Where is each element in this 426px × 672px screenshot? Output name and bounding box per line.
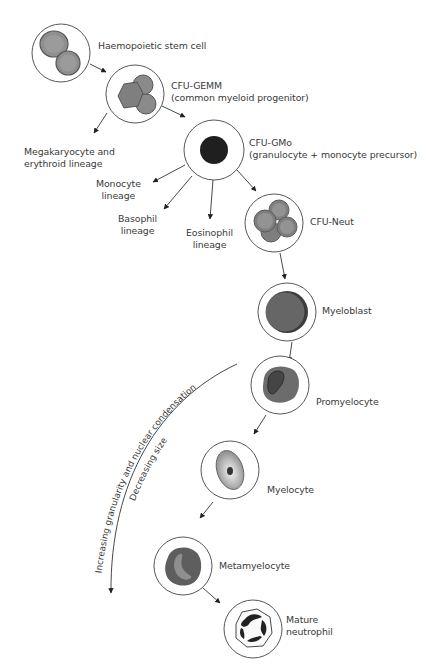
node-promyelocyte xyxy=(251,356,309,414)
label-cfu-gemm: CFU-GEMM (common myeloid progenitor) xyxy=(171,80,309,104)
label-cfu-gmo: CFU-GMo (granulocyte + monocyte precurso… xyxy=(249,137,417,161)
label-branch-basophil: Basophil lineage xyxy=(118,213,157,237)
label-promyelocyte: Promyelocyte xyxy=(316,396,379,408)
arrow-gemm-to-megaery xyxy=(94,113,107,133)
arrow-gmo-to-monocyte xyxy=(153,165,185,182)
node-cfu-gmo xyxy=(184,120,244,180)
node-cfu-gemm xyxy=(106,65,164,123)
mature-neutrophil-cell-icon xyxy=(236,609,272,647)
node-myeloblast xyxy=(258,283,316,341)
label-branch-eosinophil: Eosinophil lineage xyxy=(186,227,233,251)
label-myelocyte: Myelocyte xyxy=(267,484,314,496)
arrow-stem-to-gemm xyxy=(90,64,106,72)
label-mature-neutrophil: Mature neutrophil xyxy=(286,614,333,638)
label-metamyelocyte: Metamyelocyte xyxy=(219,560,290,572)
node-cfu-neut xyxy=(245,194,303,252)
label-stem-cell: Haemopoietic stem cell xyxy=(98,40,206,52)
node-stem-cell xyxy=(32,24,90,82)
arrow-myelocyte-to-metamyelocyte xyxy=(200,502,213,518)
arrow-gmo-to-basophil xyxy=(164,176,192,209)
arrow-neut-to-myeloblast xyxy=(280,253,285,279)
arrow-gemm-to-gmo xyxy=(162,106,185,117)
arrow-promyelocyte-to-myelocyte xyxy=(254,415,266,434)
node-myelocyte xyxy=(201,441,259,499)
node-metamyelocyte xyxy=(154,537,212,595)
cfu-gmo-nucleus-icon xyxy=(200,136,228,164)
label-myeloblast: Myeloblast xyxy=(322,305,372,317)
metamyelocyte-cell-icon xyxy=(165,547,201,585)
arrow-gmo-to-eosinophil xyxy=(210,180,213,219)
arrow-gmo-to-neut xyxy=(237,170,256,191)
label-branch-megakaryocyte-erythroid: Megakaryocyte and erythroid lineage xyxy=(24,146,115,170)
label-branch-monocyte: Monocyte lineage xyxy=(96,178,141,202)
label-cfu-neut: CFU-Neut xyxy=(310,216,354,228)
arrow-metamyelocyte-to-neutrophil xyxy=(203,588,220,603)
promyelocyte-cell-icon xyxy=(263,366,299,402)
node-mature-neutrophil xyxy=(224,600,282,658)
